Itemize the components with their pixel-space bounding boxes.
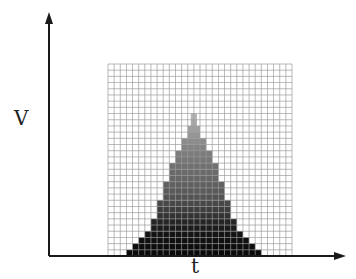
diagram-canvas [0, 0, 356, 279]
x-axis-arrow-icon [334, 252, 346, 260]
background-grid [108, 64, 292, 256]
y-axis-label: V [14, 108, 28, 128]
x-axis-label: t [191, 256, 199, 276]
y-axis-arrow-icon [45, 12, 53, 24]
